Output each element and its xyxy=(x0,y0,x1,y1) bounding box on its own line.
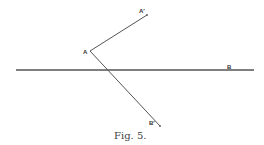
segment-a-to-b-prime xyxy=(90,51,160,126)
point-a-prime xyxy=(146,14,148,16)
segment-a-to-a-prime xyxy=(90,15,147,51)
label-b: B xyxy=(227,64,232,70)
label-b-prime: B′ xyxy=(149,120,155,126)
label-a-prime: A′ xyxy=(139,8,145,14)
point-b-prime xyxy=(159,125,161,127)
figure-caption: Fig. 5. xyxy=(114,130,146,141)
geometry-figure: A A′ B′ B Fig. 5. xyxy=(0,0,264,145)
label-a: A xyxy=(83,49,88,55)
